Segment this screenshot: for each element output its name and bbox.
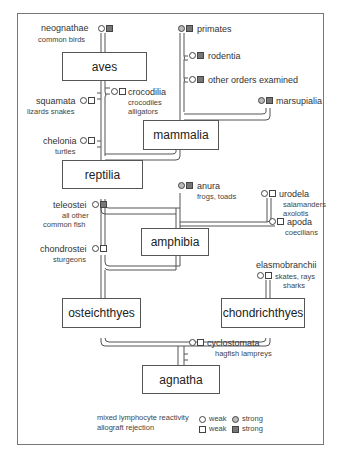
common-apoda: coecilians [285,228,318,237]
circle-strong-icon [232,416,239,423]
common-teleostei-1: all other [62,211,89,220]
common-chelonia: turtles [55,147,75,156]
graft-strong-icon [197,76,204,83]
common-chondrostei: sturgeons [53,255,86,264]
group-label: aves [92,60,117,74]
taxon-crocodilia: crocodilia [128,87,166,97]
legend-graft-weak: weak [199,424,227,434]
group-agnatha: agnatha [142,365,220,394]
legend-mlr-label: mixed lymphocyte reactivity [97,413,189,423]
taxon-primates: primates [197,24,232,34]
group-label: chondrichthyes [223,306,304,320]
taxon-urodela: urodela [279,189,309,199]
group-label: amphibia [151,235,200,249]
taxon-neognathae: neognathae [41,23,89,33]
symbols-marsupialia [258,97,273,104]
graft-strong-icon [197,52,204,59]
mlr-weak-icon [261,190,268,197]
symbols-other-orders [189,76,204,83]
common-elasmobranchii-2: sharks [283,281,305,290]
graft-weak-icon [265,272,272,279]
mlr-weak-icon [80,137,87,144]
mlr-weak-icon [269,218,276,225]
symbols-urodela [261,190,276,197]
graft-weak-icon [197,339,204,346]
legend-graft-strong: strong [232,424,263,434]
group-label: osteichthyes [68,306,135,320]
graft-weak-icon [88,97,95,104]
taxon-elasmobranchii: elasmobranchii [256,260,317,270]
common-squamata: lizards snakes [27,107,75,116]
mlr-weak-icon [189,52,196,59]
graft-strong-icon [186,25,193,32]
common-elasmobranchii-1: skates, rays [275,272,315,281]
graft-strong-icon [186,182,193,189]
legend-strong-text: strong [242,424,263,434]
symbols-apoda [269,218,284,225]
symbols-cyclostomata [189,339,204,346]
graft-strong-icon [106,25,113,32]
group-label: reptilia [85,168,120,182]
group-label: mammalia [153,128,208,142]
graft-strong-icon [266,97,273,104]
taxon-squamata: squamata [36,96,76,106]
symbols-crocodilia [111,88,126,95]
symbols-teleostei [92,201,107,208]
group-label: agnatha [159,373,202,387]
mlr-weak-icon [98,25,105,32]
group-osteichthyes: osteichthyes [62,298,141,328]
graft-weak-icon [100,245,107,252]
mlr-strong-icon [178,182,185,189]
group-reptilia: reptilia [62,160,143,189]
graft-strong-icon [100,201,107,208]
circle-weak-icon [199,416,206,423]
mlr-weak-icon [92,245,99,252]
common-cyclostomata: hagfish lampreys [215,349,272,358]
legend-strong-text: strong [242,414,263,424]
mlr-weak-icon [111,88,118,95]
common-crocodilia-2: alligators [128,107,158,116]
mlr-weak-icon [189,339,196,346]
symbols-elasmobranchii [257,272,272,279]
symbols-chelonia [80,137,95,144]
common-neognathae: common birds [38,35,85,44]
group-aves: aves [62,52,147,81]
symbols-primates [178,25,193,32]
common-teleostei-2: common fish [43,220,86,229]
graft-weak-icon [88,137,95,144]
mlr-strong-icon [258,97,265,104]
taxon-other-orders: other orders examined [208,75,298,85]
symbols-chondrostei [92,245,107,252]
mlr-strong-icon [178,25,185,32]
legend-mlr-strong: strong [232,414,263,424]
taxon-chelonia: chelonia [43,136,77,146]
taxon-teleostei: teleostei [53,200,87,210]
common-anura: frogs, toads [197,192,236,201]
graft-weak-icon [269,190,276,197]
legend-weak-text: weak [209,414,227,424]
legend-weak-text: weak [209,424,227,434]
mlr-weak-icon [80,97,87,104]
legend-graft-label: allograft rejection [97,423,154,433]
group-amphibia: amphibia [141,228,209,256]
symbols-squamata [80,97,95,104]
taxon-apoda: apoda [287,217,312,227]
taxon-marsupialia: marsupialia [276,96,322,106]
mlr-weak-icon [257,272,264,279]
graft-weak-icon [277,218,284,225]
taxon-cyclostomata: cyclostomata [207,338,260,348]
group-chondrichthyes: chondrichthyes [221,298,305,328]
mlr-weak-icon [92,201,99,208]
group-mammalia: mammalia [143,120,219,150]
taxon-anura: anura [197,181,220,191]
symbols-anura [178,182,193,189]
square-weak-icon [199,426,206,433]
square-strong-icon [232,426,239,433]
taxon-chondrostei: chondrostei [40,244,87,254]
taxon-rodentia: rodentia [208,51,241,61]
graft-weak-icon [119,88,126,95]
symbols-neognathae [98,25,113,32]
mlr-weak-icon [189,76,196,83]
symbols-rodentia [189,52,204,59]
legend-mlr-weak: weak [199,414,227,424]
